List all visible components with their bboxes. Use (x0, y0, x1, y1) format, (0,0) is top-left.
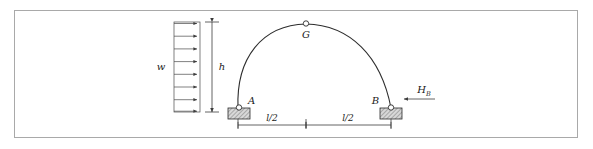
reaction-label: HB (416, 84, 431, 98)
span-left-label: l/2 (266, 113, 278, 123)
load-arrow-set (174, 24, 197, 112)
arch-diagram-figure: w h G A B (0, 0, 593, 149)
support-a-group: A (228, 95, 255, 119)
crown-hinge-label: G (302, 29, 310, 40)
support-b-group: B (371, 95, 402, 119)
hinge-circle-icon (236, 105, 241, 110)
arch-curve (238, 24, 391, 108)
height-dimension-group: h (205, 22, 225, 112)
support-a-label: A (247, 95, 255, 106)
crown-hinge-group: G (302, 21, 310, 40)
load-rectangle (174, 22, 200, 112)
hinge-circle-icon (388, 105, 393, 110)
hinge-circle-icon (303, 21, 308, 26)
distributed-load-group: w (157, 22, 200, 112)
support-b-label: B (371, 95, 379, 106)
arch-diagram-canvas: w h G A B (0, 0, 593, 149)
load-label: w (157, 61, 166, 72)
reaction-force-group: HB (404, 84, 435, 99)
span-right-label: l/2 (342, 113, 354, 123)
arch-curve-group (238, 24, 391, 108)
span-dimension-group: l/2 l/2 (238, 113, 391, 129)
height-label: h (219, 61, 225, 72)
